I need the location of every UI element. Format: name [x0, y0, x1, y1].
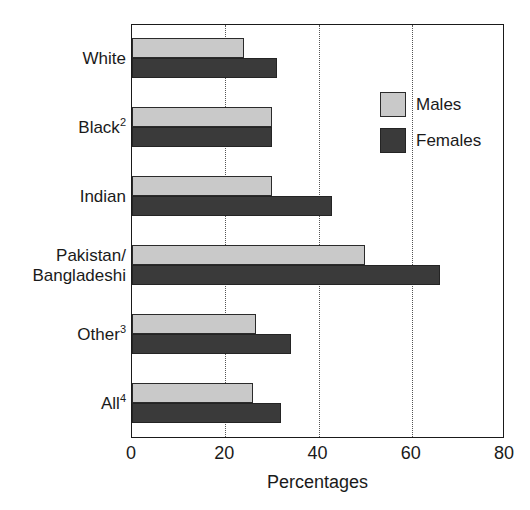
- y-axis-label-3: Pakistan/Bangladeshi: [1, 246, 126, 286]
- footnote-marker: 3: [120, 323, 126, 335]
- bar-females-2: [132, 196, 332, 216]
- plot-area: [131, 24, 504, 438]
- gridline-40: [319, 25, 320, 437]
- bar-males-4: [132, 314, 256, 334]
- bar-females-5: [132, 403, 281, 423]
- bar-males-1: [132, 107, 272, 127]
- x-tick-label-20: 20: [214, 443, 234, 464]
- x-axis-ticks: 020406080: [0, 443, 530, 467]
- x-tick-label-60: 60: [401, 443, 421, 464]
- legend-swatch-males: [380, 92, 406, 117]
- chart-legend: MalesFemales: [380, 92, 515, 164]
- bar-females-1: [132, 127, 272, 147]
- y-axis-labels: WhiteBlack2IndianPakistan/BangladeshiOth…: [0, 0, 126, 510]
- y-axis-label-0: White: [1, 49, 126, 69]
- legend-swatch-females: [380, 128, 406, 153]
- gridline-20: [225, 25, 226, 437]
- gridline-60: [412, 25, 413, 437]
- bar-females-4: [132, 334, 291, 354]
- y-axis-label-1: Black2: [1, 118, 126, 138]
- bar-males-3: [132, 245, 365, 265]
- legend-label-females: Females: [416, 131, 481, 151]
- footnote-marker: 2: [120, 116, 126, 128]
- legend-label-males: Males: [416, 95, 461, 115]
- y-axis-label-2: Indian: [1, 187, 126, 207]
- bar-chart: WhiteBlack2IndianPakistan/BangladeshiOth…: [0, 0, 530, 510]
- footnote-marker: 4: [120, 392, 126, 404]
- bar-males-2: [132, 176, 272, 196]
- x-tick-label-80: 80: [494, 443, 514, 464]
- x-tick-label-0: 0: [126, 443, 136, 464]
- bar-males-0: [132, 38, 244, 58]
- y-axis-label-5: All4: [1, 394, 126, 414]
- legend-item-females: Females: [380, 128, 515, 153]
- legend-item-males: Males: [380, 92, 515, 117]
- x-tick-label-40: 40: [307, 443, 327, 464]
- y-axis-label-4: Other3: [1, 325, 126, 345]
- bar-females-3: [132, 265, 440, 285]
- bar-males-5: [132, 383, 253, 403]
- bar-females-0: [132, 58, 277, 78]
- x-axis-title: Percentages: [131, 472, 504, 493]
